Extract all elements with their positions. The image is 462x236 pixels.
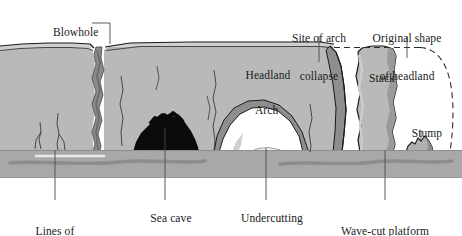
cliff-left-block <box>0 47 96 155</box>
label-arch: Arch <box>244 91 279 130</box>
label-site-of-arch-collapse-line1: Site of arch <box>292 32 346 45</box>
sea-dark-streak-left <box>10 161 205 163</box>
label-undercutting-text: Undercutting <box>241 212 303 224</box>
label-arch-text: Arch <box>255 104 278 116</box>
label-sea-cave: Sea cave <box>138 199 191 236</box>
label-lines-of-weakness-line1: Lines of <box>33 225 78 236</box>
label-stack: Stack <box>357 59 395 98</box>
label-stump-text: Stump <box>412 127 443 139</box>
label-site-of-arch-collapse: Site of arch collapse <box>292 6 346 109</box>
label-stump: Stump <box>400 114 442 153</box>
label-wave-cut-platform: Wave-cut platform exposed at low tide <box>339 199 430 236</box>
label-blowhole: Blowhole <box>41 13 98 52</box>
label-blowhole-text: Blowhole <box>53 26 99 38</box>
label-lines-of-weakness: Lines of weakness <box>33 199 78 236</box>
label-undercutting: Undercutting <box>229 199 303 236</box>
label-headland: Headland <box>234 56 291 95</box>
label-headland-text: Headland <box>246 69 291 81</box>
label-site-of-arch-collapse-line2: collapse <box>292 70 346 83</box>
label-original-shape-line1: Original shape <box>373 32 442 45</box>
label-sea-cave-text: Sea cave <box>150 212 191 224</box>
label-wave-cut-platform-line1: Wave-cut platform <box>339 225 430 236</box>
sea-dark-streak-right <box>280 161 452 164</box>
coastal-erosion-diagram: Blowhole Site of arch collapse Original … <box>0 0 462 236</box>
label-stack-text: Stack <box>369 72 395 84</box>
